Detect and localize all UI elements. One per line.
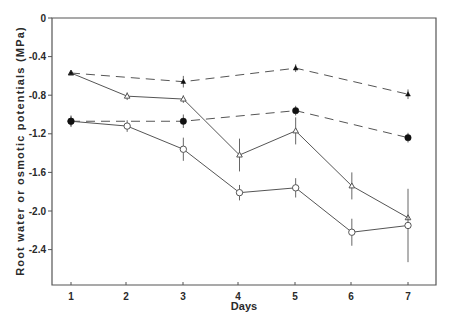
x-tick-label: 3	[180, 291, 186, 302]
y-tick-label: -1.6	[29, 167, 47, 178]
y-axis-title: Root water or osmotic potentials (MPa)	[14, 26, 26, 276]
y-tick-label: -1.2	[29, 128, 47, 139]
series-4	[68, 106, 411, 143]
x-tick-label: 1	[68, 291, 74, 302]
y-axis: 0-0.4-0.8-1.2-1.6-2.0-2.4	[29, 13, 52, 256]
plot-border	[52, 18, 436, 285]
dashed-line	[71, 111, 408, 138]
filled-triangle-marker	[293, 66, 298, 70]
open-triangle-marker	[293, 128, 299, 133]
x-tick-label: 5	[292, 291, 298, 302]
open-triangle-marker	[181, 96, 187, 101]
filled-circle-marker	[405, 134, 411, 140]
open-circle-marker	[349, 229, 355, 235]
x-tick-label: 6	[348, 291, 354, 302]
filled-triangle-marker	[406, 92, 411, 96]
chart: 0-0.4-0.8-1.2-1.6-2.0-2.4 1234567 Days R…	[0, 0, 450, 316]
filled-circle-marker	[292, 107, 298, 113]
open-circle-marker	[405, 222, 411, 228]
dashed-line	[71, 68, 408, 94]
x-axis-title: Days	[231, 300, 257, 312]
series-2	[68, 116, 411, 262]
y-tick-label: -0.4	[29, 51, 47, 62]
y-tick-label: 0	[40, 13, 46, 24]
filled-circle-marker	[180, 118, 186, 124]
open-circle-marker	[180, 146, 186, 152]
open-triangle-marker	[124, 93, 130, 98]
y-tick-label: -0.8	[29, 90, 47, 101]
x-tick-label: 7	[405, 291, 411, 302]
open-circle-marker	[292, 185, 298, 191]
series-3	[69, 64, 411, 99]
filled-circle-marker	[68, 118, 74, 124]
plot-frame	[52, 18, 436, 285]
y-tick-label: -2.4	[29, 244, 47, 255]
data-series	[68, 64, 411, 262]
x-tick-label: 2	[123, 291, 129, 302]
open-circle-marker	[124, 123, 130, 129]
solid-line	[71, 121, 408, 232]
open-circle-marker	[236, 189, 242, 195]
y-tick-label: -2.0	[29, 206, 47, 217]
